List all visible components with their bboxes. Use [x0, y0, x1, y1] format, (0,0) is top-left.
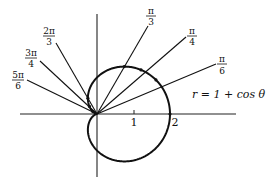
ray-pi-4 [97, 37, 186, 114]
ray-label-pi-6-num: π [219, 54, 225, 64]
ray-label-2pi-3: 2π 3 [43, 26, 55, 47]
ray-label-2pi-3-num: 2π [43, 26, 55, 36]
ray-label-2pi-3-den: 3 [46, 37, 52, 47]
ray-label-3pi-4-den: 4 [28, 59, 34, 69]
ray-label-3pi-4-num: 3π [25, 48, 37, 58]
intersection-dot [154, 78, 157, 81]
rays [27, 26, 216, 114]
ray-label-pi-4: π 4 [187, 26, 197, 47]
ray-label-pi-4-num: π [189, 26, 195, 36]
x-tick-label-1: 1 [131, 116, 138, 129]
ray-label-pi-3: π 3 [146, 6, 156, 27]
intersection-dot [139, 68, 142, 71]
ray-label-3pi-4: 3π 4 [25, 48, 37, 69]
intersection-dot [86, 97, 89, 100]
ray-label-5pi-6-num: 5π [12, 70, 24, 80]
ray-label-pi-3-num: π [148, 6, 154, 16]
ray-label-pi-4-den: 4 [189, 37, 195, 47]
intersection-dot [91, 110, 94, 113]
ray-label-pi-3-den: 3 [148, 17, 154, 27]
ray-label-pi-6-den: 6 [219, 66, 225, 76]
ray-label-pi-6: π 6 [217, 54, 227, 76]
intersection-points [86, 65, 171, 116]
ray-label-5pi-6-den: 6 [15, 81, 21, 91]
cardioid-diagram: π 3 π 4 π 6 2π 3 3π 4 5π 6 1 2 r = 1 + c… [0, 0, 269, 181]
ray-2pi-3 [56, 43, 97, 114]
x-tick-label-2: 2 [172, 116, 179, 129]
ray-label-5pi-6: 5π 6 [12, 70, 24, 91]
intersection-dot [123, 65, 126, 68]
intersection-dot [88, 105, 91, 108]
ray-5pi-6 [27, 80, 97, 114]
equation-label: r = 1 + cos θ [192, 88, 266, 101]
